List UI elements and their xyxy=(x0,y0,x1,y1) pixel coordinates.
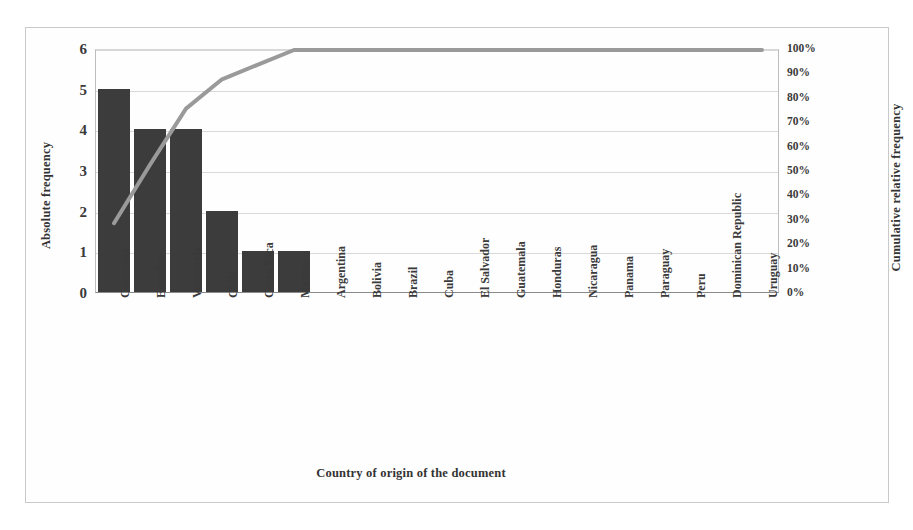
y-axis-right-title: Cumulative relative frequency xyxy=(889,98,904,278)
x-axis-tick-label: Nicaragua xyxy=(586,245,601,298)
x-axis-tick-label: Colombia xyxy=(118,248,133,298)
y-axis-left-tick-label: 5 xyxy=(49,83,87,98)
y-axis-right-tick-label: 40% xyxy=(787,189,835,201)
x-axis-ticks: ColombiaEcuadorVenezuelaChileCosta RicaM… xyxy=(95,298,779,458)
y-axis-right-tick-label: 60% xyxy=(787,141,835,153)
x-axis-tick-label: Venezuela xyxy=(190,246,205,298)
y-axis-left-tick-label: 2 xyxy=(49,205,87,220)
y-axis-left-tick-label: 1 xyxy=(49,245,87,260)
y-axis-right-tick-label: 90% xyxy=(787,67,835,79)
x-axis-tick-label: Bolivia xyxy=(370,262,385,298)
x-axis-tick-label: Dominican Republic xyxy=(730,193,745,298)
y-axis-left-tick-label: 6 xyxy=(49,42,87,57)
y-axis-right-tick-label: 20% xyxy=(787,238,835,250)
y-axis-left-tick-label: 4 xyxy=(49,123,87,138)
y-axis-right-tick-label: 50% xyxy=(787,165,835,177)
x-axis-tick-label: Cuba xyxy=(442,270,457,298)
x-axis-tick-label: Uruguay xyxy=(766,253,781,298)
y-axis-right-tick-label: 80% xyxy=(787,92,835,104)
y-axis-right-tick-label: 70% xyxy=(787,116,835,128)
x-axis-tick-label: Argentina xyxy=(334,246,349,298)
cumulative-line-path xyxy=(114,50,762,223)
y-axis-left-tick-label: 0 xyxy=(49,286,87,301)
x-axis-title: Country of origin of the document xyxy=(26,466,796,481)
x-axis-tick-label: Panama xyxy=(622,256,637,298)
x-axis-tick-label: Chile xyxy=(226,271,241,298)
x-axis-tick-label: Brazil xyxy=(406,267,421,298)
x-axis-tick-label: El Salvador xyxy=(478,238,493,298)
y-axis-right-tick-label: 30% xyxy=(787,214,835,226)
x-axis-tick-label: Costa Rica xyxy=(262,242,277,298)
x-axis-tick-label: Mexico xyxy=(298,261,313,298)
x-axis-tick-label: Guatemala xyxy=(514,241,529,298)
y-axis-left-tick-label: 3 xyxy=(49,164,87,179)
y-axis-right-tick-label: 100% xyxy=(787,43,835,55)
y-axis-right-tick-label: 10% xyxy=(787,263,835,275)
chart-frame: Absolute frequency Cumulative relative f… xyxy=(25,27,889,503)
x-axis-tick-label: Paraguay xyxy=(658,249,673,298)
x-axis-tick-label: Peru xyxy=(694,273,709,298)
x-axis-tick-label: Ecuador xyxy=(154,254,169,298)
y-axis-right-tick-label: 0% xyxy=(787,287,835,299)
x-axis-tick-label: Honduras xyxy=(550,247,565,298)
